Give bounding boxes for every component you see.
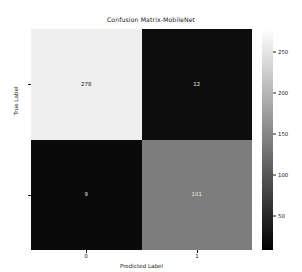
chart-title: Confusion Matrix-MobileNet — [0, 16, 302, 23]
x-tick-label-1: 1 — [182, 253, 212, 259]
heatmap-plot-area: 278 12 9 101 — [31, 29, 252, 250]
colorbar-tick-mark-250 — [273, 52, 276, 53]
colorbar-tick-mark-50 — [273, 216, 276, 217]
heatmap-cell-true0-pred1: 12 — [142, 29, 253, 140]
cell-value-true0-pred0: 278 — [81, 82, 92, 87]
cell-value-true1-pred0: 9 — [84, 192, 88, 197]
colorbar-tick-label-100: 100 — [278, 172, 288, 178]
cell-value-true0-pred1: 12 — [193, 82, 200, 87]
colorbar-tick-label-50: 50 — [278, 213, 285, 219]
heatmap-cell-true1-pred0: 9 — [31, 140, 142, 251]
colorbar-tick-label-250: 250 — [278, 49, 288, 55]
heatmap-cell-true1-pred1: 101 — [142, 140, 253, 251]
colorbar-tick-mark-150 — [273, 134, 276, 135]
colorbar-gradient — [262, 29, 273, 250]
colorbar-tick-mark-100 — [273, 175, 276, 176]
x-tick-label-0: 0 — [71, 253, 101, 259]
colorbar-tick-label-150: 150 — [278, 131, 288, 137]
heatmap-cell-true0-pred0: 278 — [31, 29, 142, 140]
confusion-matrix-figure: Confusion Matrix-MobileNet True Label 0 … — [0, 0, 302, 272]
cell-value-true1-pred1: 101 — [191, 192, 202, 197]
x-axis-label: Predicted Label — [31, 263, 252, 269]
colorbar: 25020015010050 — [262, 29, 273, 250]
colorbar-tick-mark-200 — [273, 93, 276, 94]
colorbar-tick-label-200: 200 — [278, 90, 288, 96]
y-axis-label: True Label — [13, 71, 19, 131]
